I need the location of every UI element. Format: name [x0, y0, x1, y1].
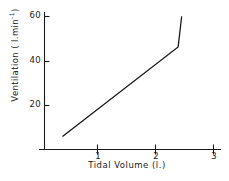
- chart-figure: 60 40 20 1 2 3 Tidal Volume (l.) Ventila…: [0, 0, 229, 181]
- y-axis-label-wrapper: Ventilation ( l.min-1): [11, 0, 25, 110]
- y-axis-label-suffix: ): [10, 8, 20, 12]
- x-axis-label: Tidal Volume (l.): [62, 161, 192, 170]
- y-axis-label-prefix: Ventilation ( l.min: [10, 19, 20, 102]
- y-axis-label: Ventilation ( l.min-1): [11, 0, 20, 110]
- plot-area: [0, 0, 229, 181]
- y-axis-label-exponent: -1: [8, 12, 15, 19]
- data-series-line: [62, 16, 181, 136]
- x-tick-label-3: 3: [207, 152, 221, 161]
